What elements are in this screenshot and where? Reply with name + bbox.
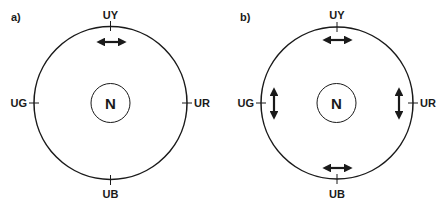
diagram-canvas: a) N UY UB UG UR b) N UY UB UG UR <box>0 0 446 207</box>
label-uy: UY <box>329 9 345 21</box>
label-ub: UB <box>103 188 119 200</box>
center-label: N <box>331 95 342 112</box>
center-label: N <box>105 95 116 112</box>
panel-b: b) N UY UB UG UR <box>238 9 436 200</box>
panel-a-label: a) <box>11 11 21 23</box>
label-ug: UG <box>11 97 28 109</box>
panel-b-label: b) <box>240 11 251 23</box>
panel-a: a) N UY UB UG UR <box>11 9 210 200</box>
label-ur: UR <box>194 97 210 109</box>
label-ur: UR <box>420 97 436 109</box>
label-ug: UG <box>238 97 255 109</box>
label-ub: UB <box>329 188 345 200</box>
label-uy: UY <box>103 9 119 21</box>
